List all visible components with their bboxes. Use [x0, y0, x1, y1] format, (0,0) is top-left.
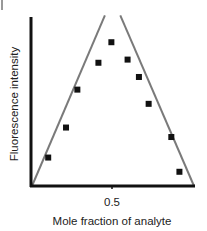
data-point-marker	[176, 169, 182, 175]
data-point-marker	[63, 125, 69, 131]
ascending-fit-line	[32, 15, 105, 186]
y-axis-label: Fluorescence intensity	[8, 47, 20, 161]
data-point-marker	[168, 134, 174, 140]
x-tick-label: 0.5	[104, 196, 120, 208]
data-point-marker	[125, 57, 131, 63]
data-point-marker	[136, 74, 142, 80]
data-point-marker	[95, 60, 101, 66]
data-point-marker	[146, 101, 152, 107]
data-point-marker	[74, 87, 80, 93]
data-point-marker	[108, 39, 114, 45]
descending-fit-line	[120, 15, 194, 186]
x-axis-label: Mole fraction of analyte	[53, 215, 172, 227]
data-point-marker	[45, 155, 51, 161]
